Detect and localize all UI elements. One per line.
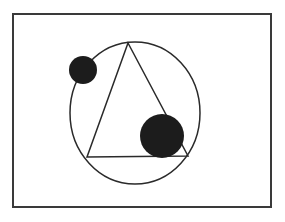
diagram-canvas: [0, 0, 285, 222]
small-disk: [69, 56, 97, 84]
large-disk: [140, 114, 184, 158]
